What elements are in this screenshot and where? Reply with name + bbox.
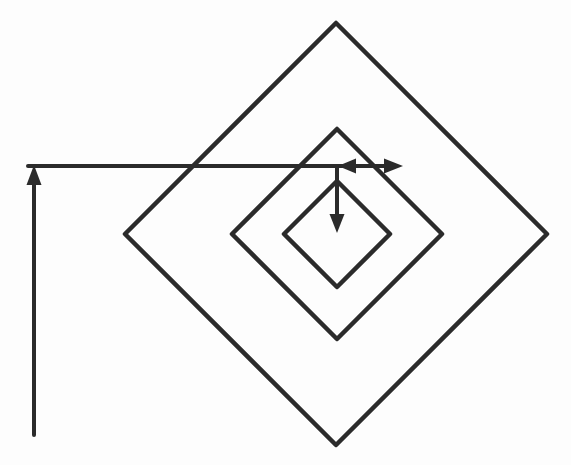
figure-container — [0, 0, 571, 465]
nested-diamonds-diagram — [0, 0, 571, 465]
